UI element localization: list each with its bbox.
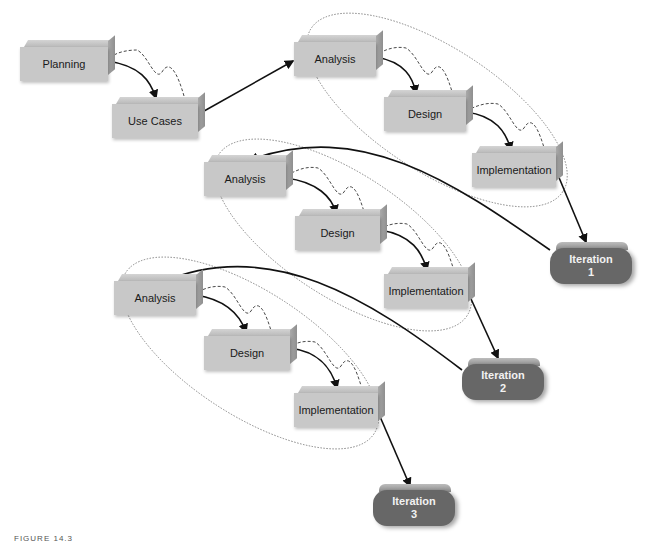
- analysis-label: Analysis: [114, 281, 196, 315]
- design-label: Design: [295, 216, 380, 250]
- use-cases-box: Use Cases: [112, 104, 198, 138]
- iteration-number: 3: [373, 508, 455, 521]
- iteration-2-design-box: Design: [295, 216, 380, 250]
- iteration-label: Iteration: [550, 253, 632, 266]
- analysis-label: Analysis: [204, 162, 286, 196]
- planning-label: Planning: [20, 47, 108, 81]
- iteration-1-design-box: Design: [384, 97, 466, 131]
- implementation-label: Implementation: [384, 274, 468, 308]
- iteration-label: Iteration: [462, 369, 544, 382]
- iteration-1-analysis-box: Analysis: [294, 42, 376, 76]
- design-label: Design: [384, 97, 466, 131]
- iteration-1-node: Iteration 1: [550, 248, 632, 284]
- iteration-3-design-box: Design: [204, 336, 290, 370]
- iteration-3-implementation-box: Implementation: [294, 393, 378, 427]
- figure-caption: FIGURE 14.3: [14, 534, 73, 543]
- iteration-number: 2: [462, 382, 544, 395]
- iteration-3-analysis-box: Analysis: [114, 281, 196, 315]
- iteration-number: 1: [550, 266, 632, 279]
- design-label: Design: [204, 336, 290, 370]
- implementation-label: Implementation: [472, 153, 556, 187]
- iteration-2-implementation-box: Implementation: [384, 274, 468, 308]
- iteration-2-node: Iteration 2: [462, 364, 544, 400]
- iteration-3-node: Iteration 3: [373, 490, 455, 526]
- analysis-label: Analysis: [294, 42, 376, 76]
- implementation-label: Implementation: [294, 393, 378, 427]
- iteration-label: Iteration: [373, 495, 455, 508]
- iteration-1-implementation-box: Implementation: [472, 153, 556, 187]
- planning-box: Planning: [20, 47, 108, 81]
- iteration-2-analysis-box: Analysis: [204, 162, 286, 196]
- use-cases-label: Use Cases: [112, 104, 198, 138]
